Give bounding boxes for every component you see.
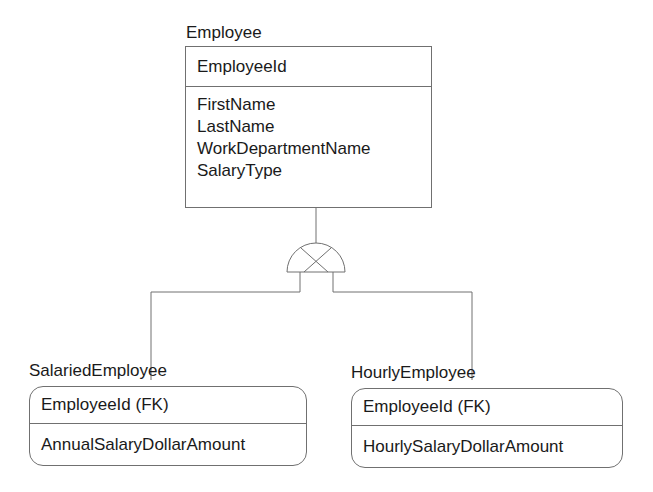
employee-entity[interactable]: EmployeeId FirstName LastName WorkDepart… <box>185 46 432 208</box>
employee-attribute-section: FirstName LastName WorkDepartmentName Sa… <box>186 87 431 182</box>
salariedemployee-key-section: EmployeeId (FK) <box>30 387 306 424</box>
hourlyemployee-attribute-section: HourlySalaryDollarAmount <box>352 426 622 468</box>
employee-entity-title: Employee <box>186 23 262 43</box>
salariedemployee-entity-title: SalariedEmployee <box>29 361 167 381</box>
hourlyemployee-attr-hourlysalary: HourlySalaryDollarAmount <box>363 436 563 458</box>
employee-key-section: EmployeeId <box>186 47 431 87</box>
salariedemployee-pk-employeeid: EmployeeId (FK) <box>41 394 169 416</box>
employee-attr-lastname: LastName <box>197 116 431 138</box>
hourlyemployee-entity[interactable]: EmployeeId (FK) HourlySalaryDollarAmount <box>351 388 623 468</box>
employee-attr-firstname: FirstName <box>197 94 431 116</box>
exclusive-subtype-symbol <box>287 243 345 272</box>
hourlyemployee-key-section: EmployeeId (FK) <box>352 389 622 426</box>
employee-attr-workdepartmentname: WorkDepartmentName <box>197 138 431 160</box>
employee-attr-salarytype: SalaryType <box>197 160 431 182</box>
salaried-connector <box>151 272 300 380</box>
salariedemployee-attr-annualsalary: AnnualSalaryDollarAmount <box>41 434 245 456</box>
hourlyemployee-entity-title: HourlyEmployee <box>351 363 476 383</box>
hourlyemployee-pk-employeeid: EmployeeId (FK) <box>363 396 491 418</box>
salariedemployee-attribute-section: AnnualSalaryDollarAmount <box>30 424 306 466</box>
employee-pk-employeeid: EmployeeId <box>197 56 287 78</box>
salariedemployee-entity[interactable]: EmployeeId (FK) AnnualSalaryDollarAmount <box>29 386 307 466</box>
